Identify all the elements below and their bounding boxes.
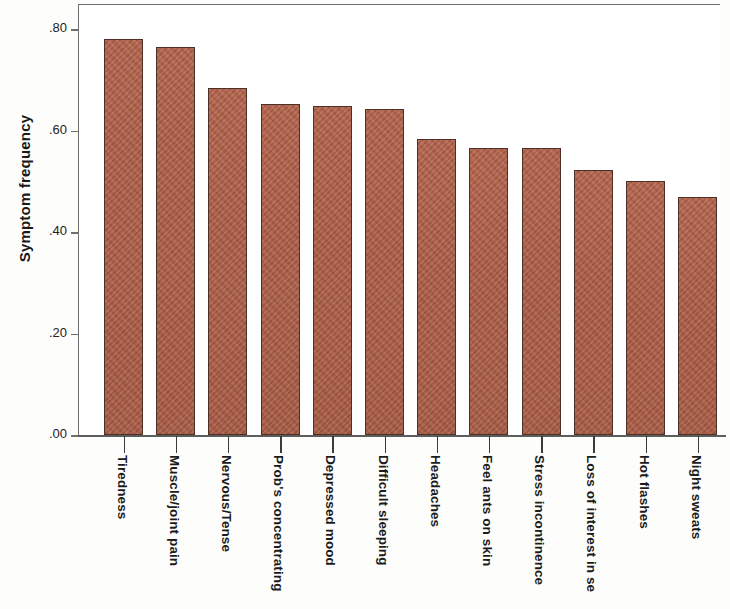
y-axis-title: Symptom frequency bbox=[16, 99, 33, 279]
bar bbox=[417, 139, 456, 435]
y-tick: .00 bbox=[0, 435, 78, 436]
y-tick-mark bbox=[71, 232, 78, 234]
x-tick-label: Stress incontinence bbox=[532, 455, 547, 585]
x-tick-mark bbox=[228, 436, 230, 453]
bar bbox=[574, 170, 613, 435]
x-tick-label: Headaches bbox=[428, 455, 443, 527]
x-tick-label: Nervous/Tense bbox=[219, 455, 234, 552]
y-tick-label: .60 bbox=[49, 122, 67, 137]
x-tick-mark bbox=[280, 436, 282, 453]
x-tick-label: Prob's concentrating bbox=[271, 455, 286, 591]
x-tick-mark bbox=[385, 436, 387, 453]
bar bbox=[208, 88, 247, 435]
y-tick-label: .20 bbox=[49, 325, 67, 340]
bar bbox=[626, 181, 665, 435]
x-tick-label: Hot flashes bbox=[637, 455, 652, 529]
x-tick-mark bbox=[646, 436, 648, 453]
bar bbox=[469, 148, 508, 435]
y-tick: .80 bbox=[0, 29, 78, 30]
x-tick-label: Difficult sleeping bbox=[376, 455, 391, 566]
x-tick-mark bbox=[489, 436, 491, 453]
x-tick-label: Depressed mood bbox=[323, 455, 338, 566]
x-tick-mark bbox=[698, 436, 700, 453]
y-tick-mark bbox=[71, 334, 78, 336]
x-tick-label: Loss of interest in se bbox=[584, 455, 599, 592]
x-tick-mark bbox=[541, 436, 543, 453]
x-tick-mark bbox=[332, 436, 334, 453]
y-tick: .20 bbox=[0, 334, 78, 335]
x-tick-label: Night sweats bbox=[689, 455, 704, 539]
chart-figure: Symptom frequency .00.20.40.60.80 Tiredn… bbox=[0, 0, 730, 609]
bar bbox=[156, 47, 195, 435]
y-tick: .60 bbox=[0, 131, 78, 132]
x-tick-label: Tiredness bbox=[115, 455, 130, 519]
y-tick: .40 bbox=[0, 232, 78, 233]
x-tick-mark bbox=[593, 436, 595, 453]
x-tick-mark bbox=[176, 436, 178, 453]
x-tick-mark bbox=[437, 436, 439, 453]
y-tick-mark bbox=[71, 435, 78, 437]
y-tick-mark bbox=[71, 131, 78, 133]
bar bbox=[104, 39, 143, 435]
bar bbox=[313, 106, 352, 435]
y-tick-label: .40 bbox=[49, 223, 67, 238]
y-tick-label: .80 bbox=[49, 20, 67, 35]
y-tick-mark bbox=[71, 29, 78, 31]
bar bbox=[261, 104, 300, 435]
x-tick-label: Feel ants on skin bbox=[480, 455, 495, 566]
bar bbox=[522, 148, 561, 435]
bar bbox=[678, 197, 717, 435]
x-tick-label: Muscle/joint pain bbox=[167, 455, 182, 566]
y-tick-label: .00 bbox=[49, 426, 67, 441]
x-tick-mark bbox=[124, 436, 126, 453]
bar bbox=[365, 109, 404, 435]
